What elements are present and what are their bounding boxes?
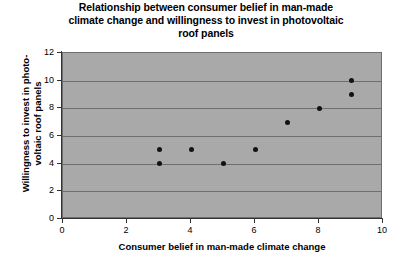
data-point <box>157 147 162 152</box>
x-tick-label: 0 <box>47 225 77 235</box>
scatter-chart: Relationship between consumer belief in … <box>0 0 408 273</box>
x-tick-label: 2 <box>111 225 141 235</box>
x-tick-label-wrap: 8 <box>303 225 333 235</box>
x-tick-label-wrap: 2 <box>111 225 141 235</box>
y-tick-mark-12 <box>57 52 61 53</box>
y-tick-mark-0 <box>57 218 61 219</box>
y-tick-mark-10 <box>57 80 61 81</box>
x-tick-mark-8 <box>318 219 319 223</box>
gridline-y-10 <box>63 81 381 82</box>
x-tick-mark-10 <box>382 219 383 223</box>
data-point <box>253 147 258 152</box>
x-tick-label: 8 <box>303 225 333 235</box>
data-point <box>157 161 162 166</box>
plot-area <box>62 52 382 218</box>
y-axis-title: Willingness to invest in photo- voltaic … <box>20 31 43 217</box>
data-point <box>221 161 226 166</box>
data-point <box>349 78 354 83</box>
x-tick-mark-6 <box>254 219 255 223</box>
y-axis-line <box>61 51 62 219</box>
x-tick-label-wrap: 6 <box>239 225 269 235</box>
x-tick-label-wrap: 4 <box>175 225 205 235</box>
x-tick-label-wrap: 10 <box>367 225 397 235</box>
y-tick-mark-8 <box>57 107 61 108</box>
data-point <box>285 120 290 125</box>
data-point <box>317 106 322 111</box>
y-axis-title-line-2: voltaic roof panels <box>31 31 43 217</box>
x-axis-line <box>61 218 383 219</box>
x-axis-title: Consumer belief in man-made climate chan… <box>62 241 382 252</box>
y-tick-mark-2 <box>57 190 61 191</box>
y-tick-mark-4 <box>57 163 61 164</box>
x-tick-label: 10 <box>367 225 397 235</box>
gridline-y-8 <box>63 108 381 109</box>
x-tick-label: 4 <box>175 225 205 235</box>
data-point <box>189 147 194 152</box>
x-tick-mark-2 <box>126 219 127 223</box>
chart-title-line-2: climate change and willingness to invest… <box>28 14 384 27</box>
y-axis-title-line-1: Willingness to invest in photo- <box>20 31 32 217</box>
gridline-y-2 <box>63 191 381 192</box>
chart-title-line-1: Relationship between consumer belief in … <box>28 1 384 14</box>
x-tick-label-wrap: 0 <box>47 225 77 235</box>
gridline-y-6 <box>63 136 381 137</box>
y-tick-mark-6 <box>57 135 61 136</box>
x-tick-mark-0 <box>62 219 63 223</box>
x-tick-label: 6 <box>239 225 269 235</box>
chart-title: Relationship between consumer belief in … <box>28 1 384 41</box>
chart-title-line-3: roof panels <box>28 27 384 40</box>
data-point <box>349 92 354 97</box>
x-tick-mark-4 <box>190 219 191 223</box>
